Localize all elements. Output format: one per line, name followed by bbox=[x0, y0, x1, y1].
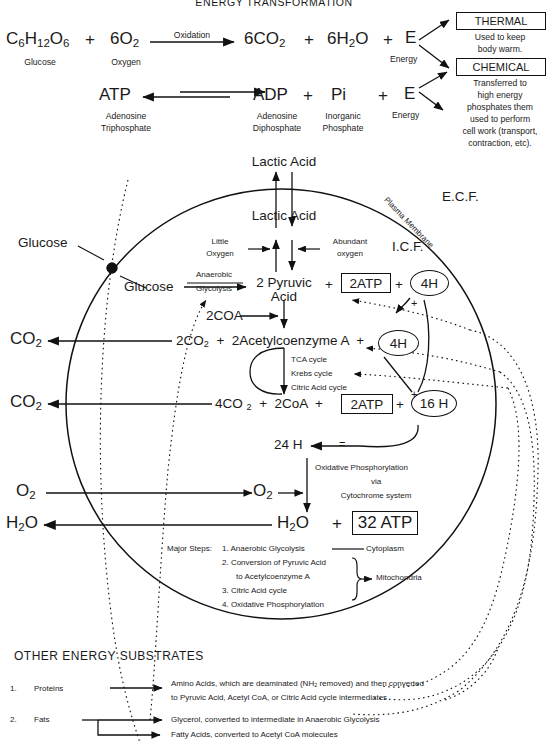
atp-yield-glycolysis-label: 2ATP bbox=[350, 276, 383, 291]
h2o-extracellular: H2O bbox=[6, 514, 38, 533]
chemical-desc-line6: contraction, etc). bbox=[468, 139, 532, 148]
oxidation-label: Oxidation bbox=[174, 31, 210, 40]
chemical-heading: CHEMICAL bbox=[473, 61, 530, 73]
glucose-formula-label: Glucose bbox=[24, 58, 56, 67]
tca-cycle-label-1: TCA cycle bbox=[291, 356, 327, 364]
substrate-row-1-name: Proteins bbox=[34, 685, 63, 693]
oxygen-formula: 6O2 bbox=[110, 30, 139, 49]
plus-sign-4: + bbox=[303, 87, 313, 104]
krebs-products-line: 4CO 2 + 2CoA + bbox=[215, 397, 323, 412]
diagram-canvas: ENERGY TRANSFORMATION C6H12O6 Glucose + … bbox=[0, 0, 548, 743]
plus-sign-9: + bbox=[332, 515, 342, 532]
atp-yield-box-glycolysis: 2ATP bbox=[341, 273, 391, 293]
little-oxygen-label-line1: Little bbox=[212, 238, 229, 246]
atp-yield-box-krebs: 2ATP bbox=[341, 394, 393, 414]
plus-sign-8: + bbox=[396, 398, 404, 412]
chemical-desc-line2: high energy bbox=[478, 91, 523, 100]
location-mitochondria-label: Mitochondria bbox=[376, 574, 422, 582]
page-title: ENERGY TRANSFORMATION bbox=[195, 0, 352, 8]
atp-yield-krebs-label: 2ATP bbox=[351, 397, 384, 412]
abundant-oxygen-label-line2: oxygen bbox=[337, 250, 363, 258]
major-step-item-2: 2. Conversion of Pyruvic Acid bbox=[222, 559, 326, 567]
hydrogen-oval-4h-pdh-label: 4H bbox=[390, 336, 407, 351]
chemical-desc-line1: Transferred to bbox=[473, 79, 527, 88]
o2-intracellular: O2 bbox=[253, 482, 273, 501]
thermal-desc-line1: Used to keep bbox=[475, 33, 526, 42]
major-step-item-5: 4. Oxidative Phosphorylation bbox=[222, 601, 324, 609]
oxygen-formula-label: Oxygen bbox=[111, 58, 141, 67]
other-substrates-heading: OTHER ENERGY SUBSTRATES bbox=[14, 650, 204, 662]
glycolysis-label-line1: Anaerobic bbox=[196, 271, 232, 279]
hydrogen-oval-4h-glycolysis: 4H bbox=[410, 270, 449, 296]
lactic-acid-intracellular: Lactic Acid bbox=[252, 209, 317, 223]
plus-join-sign-1: + bbox=[411, 298, 417, 309]
hydrogen-oval-4h-glycolysis-label: 4H bbox=[421, 276, 438, 291]
energy-symbol-lower: E bbox=[404, 85, 415, 102]
atp-name-line1: Adenosine bbox=[106, 112, 147, 121]
substrate-row-2-number: 2. bbox=[10, 716, 17, 724]
glucose-extracellular: Glucose bbox=[18, 236, 68, 250]
tca-cycle-label-2: Krebs cycle bbox=[291, 370, 332, 378]
hydrogen-oval-16h: 16 H bbox=[411, 390, 457, 417]
chemical-desc-line5: cell work (transport, bbox=[463, 127, 538, 136]
atp-name-line2: Triphosphate bbox=[101, 124, 151, 133]
tca-cycle-loop bbox=[250, 348, 284, 394]
energy-label-upper: Energy bbox=[390, 55, 417, 64]
adp-name-line1: Adenosine bbox=[257, 112, 298, 121]
atp-molecule: ATP bbox=[99, 86, 131, 103]
pi-molecule: Pi bbox=[331, 86, 346, 103]
energy-to-chemical-arrow bbox=[419, 45, 449, 68]
glucose-transporter-dot bbox=[107, 263, 117, 273]
hydrogen-oval-16h-label: 16 H bbox=[420, 396, 449, 411]
oxphos-label-line2: via bbox=[371, 478, 381, 486]
mitochondria-brace bbox=[352, 558, 362, 600]
oxphos-label-line3: Cytochrome system bbox=[341, 492, 412, 500]
co2-extracellular-1: CO2 bbox=[10, 330, 42, 349]
equals-sign: = bbox=[339, 439, 345, 450]
abundant-oxygen-label-line1: Abundant bbox=[333, 238, 367, 246]
glycolysis-label-line2: Glycolysis bbox=[196, 285, 232, 293]
energy-to-thermal-arrow bbox=[419, 20, 449, 40]
sixteenh-to-24h-curve bbox=[360, 425, 418, 447]
thermal-box: THERMAL bbox=[456, 12, 546, 30]
thermal-heading: THERMAL bbox=[475, 15, 528, 27]
co2-product: 6CO2 bbox=[244, 30, 285, 49]
substrate-row-2-desc-line2: Fatty Acids, converted to Acetyl CoA mol… bbox=[171, 731, 338, 739]
atp-yield-oxphos-label: 32 ATP bbox=[358, 513, 413, 533]
adp-name-line2: Diphosphate bbox=[253, 124, 301, 133]
lower-energy-to-chemical-down-arrow bbox=[419, 92, 443, 110]
plus-sign-6: + bbox=[325, 278, 333, 292]
lactic-acid-extracellular: Lactic Acid bbox=[252, 155, 317, 169]
glucose-intracellular: Glucose bbox=[124, 280, 174, 294]
substrate-row-1-desc-line2: to Pyruvic Acid, Acetyl CoA, or Citric A… bbox=[171, 694, 387, 702]
fats-branch-lower bbox=[98, 720, 160, 735]
pi-name-line2: Phosphate bbox=[322, 124, 363, 133]
energy-symbol-upper: E bbox=[405, 29, 416, 46]
chemical-desc-line4: used to perform bbox=[470, 115, 530, 124]
substrate-row-1-number: 1. bbox=[10, 685, 17, 693]
location-cytoplasm-label: Cytoplasm bbox=[366, 545, 404, 553]
substrate-row-2-name: Fats bbox=[34, 716, 50, 724]
fourh1-join-arrow bbox=[396, 298, 410, 313]
o2-extracellular: O2 bbox=[16, 482, 36, 501]
fourh2-join-arrow bbox=[384, 357, 412, 392]
thermal-desc-line2: body warm. bbox=[478, 45, 522, 54]
fats-feedback-tail bbox=[445, 648, 498, 700]
fourh1-right-curve bbox=[418, 300, 429, 392]
energy-label-lower: Energy bbox=[392, 111, 419, 120]
total-hydrogen-label: 24 H bbox=[274, 438, 303, 452]
co2-extracellular-2: CO2 bbox=[10, 393, 42, 412]
pyruvic-acid-line1: 2 Pyruvic bbox=[256, 276, 312, 290]
glucose-formula: C6H12O6 bbox=[6, 30, 69, 49]
h2o-intracellular: H2O bbox=[277, 514, 309, 533]
major-steps-heading: Major Steps: bbox=[167, 545, 212, 553]
chemical-box: CHEMICAL bbox=[456, 58, 546, 76]
pi-name-line1: Inorganic bbox=[325, 112, 360, 121]
acetylcoa-reaction-line: 2CO2 + 2Acetylcoenzyme A + bbox=[176, 334, 364, 349]
hydrogen-oval-4h-pdh: 4H bbox=[378, 330, 419, 356]
substrate-row-1-desc-line1: Amino Acids, which are deaminated (NH2 r… bbox=[171, 680, 424, 689]
little-oxygen-label-line2: Oxygen bbox=[206, 250, 234, 258]
plus-sign-5: + bbox=[378, 87, 388, 104]
plus-sign-3: + bbox=[383, 31, 393, 48]
major-step-item-4: 3. Citric Acid cycle bbox=[222, 587, 287, 595]
